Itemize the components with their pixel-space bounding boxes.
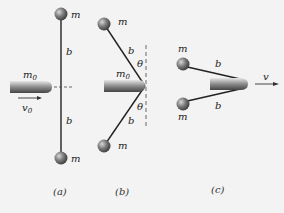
arrowhead-icon bbox=[37, 96, 42, 100]
diagram-canvas: m b m0 v0 b m (a) m b θ m0 θ b m (b) m b… bbox=[0, 0, 284, 213]
svg-text:b: b bbox=[215, 58, 221, 69]
svg-text:m: m bbox=[178, 43, 187, 54]
svg-text:v0: v0 bbox=[22, 102, 33, 115]
svg-text:m: m bbox=[118, 140, 127, 151]
panel-b: m b θ m0 θ b m (b) bbox=[98, 16, 147, 197]
svg-text:θ: θ bbox=[137, 58, 143, 69]
svg-text:m: m bbox=[71, 153, 80, 164]
svg-text:m0: m0 bbox=[116, 68, 130, 81]
arrowhead-icon bbox=[273, 82, 279, 86]
svg-text:m: m bbox=[178, 111, 187, 122]
projectile bbox=[10, 81, 52, 93]
projectile bbox=[104, 80, 145, 92]
caption-a: (a) bbox=[53, 186, 67, 197]
svg-text:m: m bbox=[118, 16, 127, 27]
svg-text:b: b bbox=[128, 115, 134, 126]
ball-top bbox=[177, 58, 190, 71]
svg-text:b: b bbox=[66, 115, 72, 126]
rod-bottom bbox=[104, 86, 145, 146]
ball-bottom bbox=[98, 140, 111, 153]
ball-top bbox=[55, 8, 68, 21]
ball-bottom bbox=[55, 152, 68, 165]
svg-text:m0: m0 bbox=[23, 69, 37, 82]
projectile bbox=[210, 78, 248, 90]
svg-text:v: v bbox=[263, 71, 269, 82]
svg-text:b: b bbox=[66, 46, 72, 57]
caption-b: (b) bbox=[115, 186, 129, 197]
caption-c: (c) bbox=[211, 184, 225, 195]
panel-c: m b v b m (c) bbox=[177, 43, 280, 195]
svg-text:b: b bbox=[128, 45, 134, 56]
svg-text:θ: θ bbox=[137, 101, 143, 112]
ball-top bbox=[98, 18, 111, 31]
ball-bottom bbox=[177, 98, 190, 111]
svg-text:m: m bbox=[71, 9, 80, 20]
svg-text:b: b bbox=[215, 100, 221, 111]
panel-a: m b m0 v0 b m (a) bbox=[10, 8, 80, 198]
